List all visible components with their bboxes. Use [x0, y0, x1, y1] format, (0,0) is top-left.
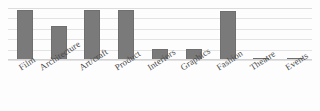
x-axis-labels: FilmArchitectureArt/craftProductInterior… [8, 61, 312, 111]
bar-slot [278, 8, 312, 60]
x-label-slot: Graphics [177, 61, 211, 111]
x-label-slot: Architecture [42, 61, 76, 111]
x-label-slot: Art/craft [76, 61, 110, 111]
bar-chart: FilmArchitectureArt/craftProductInterior… [0, 0, 320, 111]
bar-film[interactable] [17, 10, 33, 60]
x-label-slot: Theatre [244, 61, 278, 111]
x-label-slot: Events [278, 61, 312, 111]
bar-slot [8, 8, 42, 60]
x-label-slot: Interiors [143, 61, 177, 111]
x-label-slot: Film [8, 61, 42, 111]
x-label-slot: Fashion [211, 61, 245, 111]
x-label-slot: Product [109, 61, 143, 111]
